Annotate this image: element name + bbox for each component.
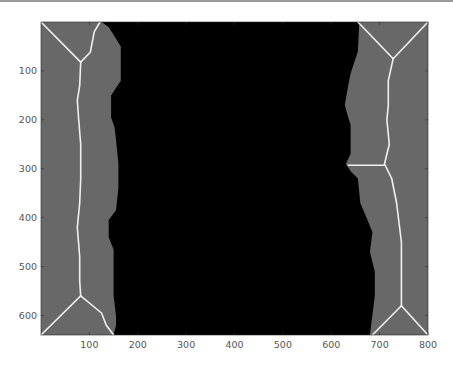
figure-canvas: 100200300400500600700800 100200300400500… <box>0 0 453 369</box>
y-tick-label: 200 <box>19 114 37 125</box>
x-tick-label: 700 <box>371 339 389 350</box>
x-tick-label: 300 <box>177 339 195 350</box>
x-tick-label: 500 <box>274 339 292 350</box>
plot-area <box>41 22 428 335</box>
x-tick-label: 600 <box>322 339 340 350</box>
y-tick-label: 400 <box>19 212 37 223</box>
x-tick-label: 200 <box>129 339 147 350</box>
y-tick-label: 100 <box>19 65 37 76</box>
y-tick-label: 300 <box>19 163 37 174</box>
black-central-region <box>102 22 375 335</box>
y-tick-label: 600 <box>19 310 37 321</box>
x-tick-label: 100 <box>80 339 98 350</box>
y-tick-label: 500 <box>19 261 37 272</box>
x-tick-label: 800 <box>419 339 437 350</box>
x-tick-label: 400 <box>225 339 243 350</box>
